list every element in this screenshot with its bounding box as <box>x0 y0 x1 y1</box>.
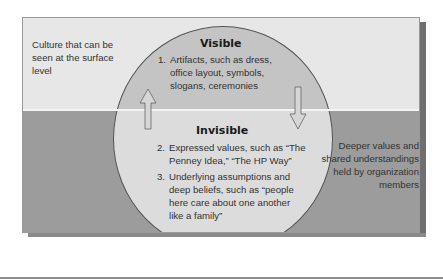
item-text: Artifacts, such as dress, office layout,… <box>170 53 288 92</box>
arrow-up-icon <box>139 88 157 130</box>
deeper-values-label: Deeper values and shared understandings … <box>309 139 419 191</box>
page-divider <box>0 277 443 279</box>
frame-shadow-bottom <box>28 233 426 237</box>
invisible-item-assumptions: 3. Underlying assumptions and deep belie… <box>157 170 297 222</box>
arrow-down-icon <box>289 86 307 130</box>
waterline-divider <box>23 109 419 111</box>
invisible-heading: Invisible <box>196 124 248 137</box>
item-number: 2. <box>157 141 165 154</box>
frame-shadow-right <box>420 22 426 236</box>
visible-item-artifacts: 1. Artifacts, such as dress, office layo… <box>158 53 288 92</box>
surface-level-label: Culture that can be seen at the surface … <box>32 38 132 77</box>
visible-heading: Visible <box>200 37 242 50</box>
item-number: 3. <box>157 170 165 183</box>
item-text: Underlying assumptions and deep beliefs,… <box>169 170 297 222</box>
item-text: Expressed values, such as “The Penney Id… <box>169 141 307 167</box>
item-number: 1. <box>158 53 166 66</box>
culture-iceberg-diagram: Culture that can be seen at the surface … <box>0 0 443 280</box>
invisible-item-expressed-values: 2. Expressed values, such as “The Penney… <box>157 141 307 167</box>
